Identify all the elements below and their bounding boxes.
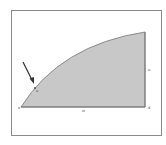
diagram: a o w a d <box>0 0 166 145</box>
shaded-region <box>21 32 145 107</box>
label-right-corner: d <box>148 105 150 110</box>
label-origin: o <box>18 105 21 110</box>
label-right-side: a <box>148 67 151 72</box>
label-base: w <box>82 108 85 113</box>
arrow-icon <box>23 62 34 84</box>
